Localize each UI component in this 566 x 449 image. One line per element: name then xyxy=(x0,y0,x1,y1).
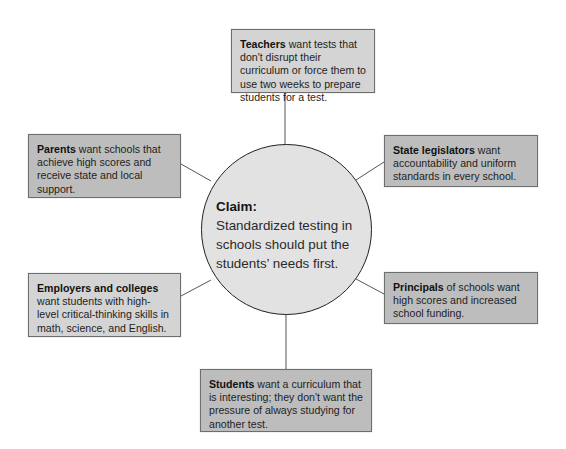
connector-parents xyxy=(181,164,211,181)
stakeholder-box-students: Students want a curriculum that is inter… xyxy=(200,369,372,432)
stakeholder-box-state-legislators: State legislators want accountability an… xyxy=(384,135,538,187)
stakeholder-box-teachers: Teachers want tests that don't disrupt t… xyxy=(231,29,375,93)
connector-state-legislators xyxy=(356,162,384,180)
stakeholder-group-label: Teachers xyxy=(240,38,286,50)
stakeholder-group-label: State legislators xyxy=(393,144,475,156)
stakeholder-group-label: Students xyxy=(209,378,254,390)
stakeholder-box-parents: Parents want schools that achieve high s… xyxy=(28,134,181,198)
claim-title: Claim: xyxy=(216,197,366,216)
stakeholder-group-label: Parents xyxy=(37,143,76,155)
stakeholder-group-label: Employers and colleges xyxy=(37,282,158,294)
connector-employers-colleges xyxy=(181,280,211,296)
stakeholder-box-principals: Principals of schools want high scores a… xyxy=(384,272,538,324)
connector-principals xyxy=(356,279,384,294)
stakeholder-group-label: Principals xyxy=(393,281,444,293)
claim-body: Standardized testing in schools should p… xyxy=(216,218,352,271)
claim-statement: Claim: Standardized testing in schools s… xyxy=(216,197,366,273)
stakeholder-description: want students with high-level critical-t… xyxy=(37,295,169,333)
stakeholder-box-employers-colleges: Employers and colleges want students wit… xyxy=(28,273,181,337)
